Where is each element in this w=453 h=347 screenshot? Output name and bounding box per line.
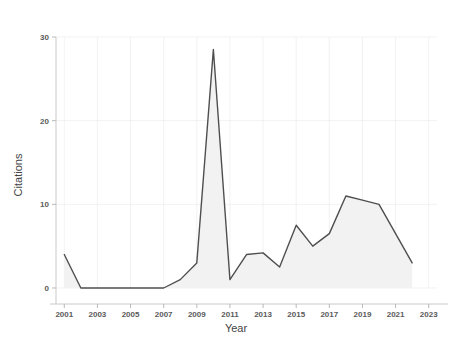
citations-line-chart: 2001200320052007200920112013201520172019… — [0, 0, 453, 347]
x-tick-label: 2015 — [287, 310, 305, 319]
x-tick-label: 2023 — [420, 310, 438, 319]
x-tick-label: 2013 — [254, 310, 272, 319]
x-axis-title: Year — [225, 322, 248, 334]
y-tick-label: 20 — [40, 117, 49, 126]
y-tick-label: 10 — [40, 200, 49, 209]
x-tick-label: 2009 — [188, 310, 206, 319]
x-tick-label: 2003 — [89, 310, 107, 319]
y-tick-label: 30 — [40, 33, 49, 42]
chart-canvas: 2001200320052007200920112013201520172019… — [0, 0, 453, 347]
x-tick-label: 2007 — [155, 310, 173, 319]
x-tick-label: 2005 — [122, 310, 140, 319]
y-tick-label: 0 — [45, 284, 50, 293]
x-tick-label: 2011 — [221, 310, 239, 319]
x-tick-label: 2017 — [320, 310, 338, 319]
y-axis-title: Citations — [12, 153, 24, 196]
x-tick-label: 2001 — [55, 310, 73, 319]
chart-background — [0, 0, 453, 347]
x-tick-label: 2021 — [387, 310, 405, 319]
x-tick-label: 2019 — [354, 310, 372, 319]
